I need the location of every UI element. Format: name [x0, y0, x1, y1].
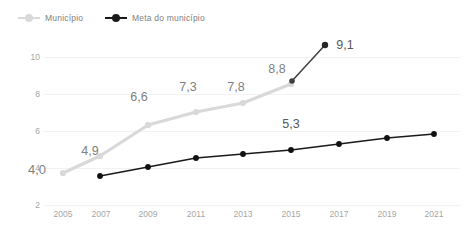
data-point-meta-2009[interactable] — [145, 164, 151, 170]
series-line-meta — [100, 134, 434, 176]
data-point-meta-2019[interactable] — [384, 135, 390, 141]
data-point-meta-2015[interactable] — [288, 147, 294, 153]
data-point-municipio-2009[interactable] — [145, 122, 151, 128]
data-point-meta-2013[interactable] — [240, 151, 246, 157]
data-label-municipio-2007: 4,9 — [70, 144, 110, 158]
data-point-municipio-2013[interactable] — [240, 100, 246, 106]
data-point-meta-2017[interactable] — [336, 141, 342, 147]
data-point-meta-2021[interactable] — [431, 131, 437, 137]
series-layer — [0, 0, 465, 242]
data-label-municipio-2005: 4,0 — [17, 162, 57, 177]
data-point-municipio-2011[interactable] — [193, 109, 199, 115]
data-point-meta-2011[interactable] — [193, 155, 199, 161]
series-line-municipio — [63, 84, 291, 173]
data-label-municipio-2015: 8,8 — [257, 62, 297, 76]
data-label-municipio-2013: 7,8 — [216, 80, 256, 94]
data-label-municipio-2011: 7,3 — [168, 80, 208, 94]
data-point-meta-2007[interactable] — [97, 173, 103, 179]
plot-area: 10 8 6 4 2 2005 2007 2009 2011 2013 2015… — [0, 0, 465, 242]
data-label-municipio-9-1: 9,1 — [325, 38, 365, 52]
data-point-municipio-2015-dark[interactable] — [289, 78, 295, 84]
data-label-municipio-2009: 6,6 — [119, 90, 159, 104]
line-chart: Município Meta do município 10 8 6 4 2 2… — [0, 0, 465, 242]
data-label-meta-2015: 5,3 — [271, 117, 311, 131]
data-point-municipio-2005[interactable] — [60, 170, 66, 176]
